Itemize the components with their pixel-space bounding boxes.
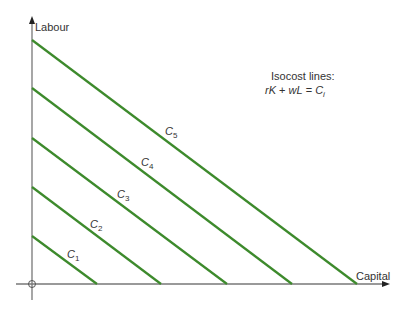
legend-title: Isocost lines: (271, 69, 335, 83)
y-axis-label: Labour (35, 21, 69, 33)
line-label-c1: C1 (67, 248, 79, 263)
isocost-diagram (0, 0, 416, 309)
line-label-c4: C4 (141, 156, 153, 171)
isocost-line-c1 (32, 236, 97, 284)
x-axis-label: Capital (356, 270, 390, 282)
isocost-line-c3 (32, 138, 227, 284)
isocost-line-c2 (32, 187, 161, 284)
legend-equation: rK + wL = Ci (265, 83, 335, 102)
legend: Isocost lines: rK + wL = Ci (271, 69, 335, 102)
line-label-c5: C5 (165, 125, 177, 140)
line-label-c2: C2 (90, 218, 102, 233)
line-label-c3: C3 (117, 188, 129, 203)
